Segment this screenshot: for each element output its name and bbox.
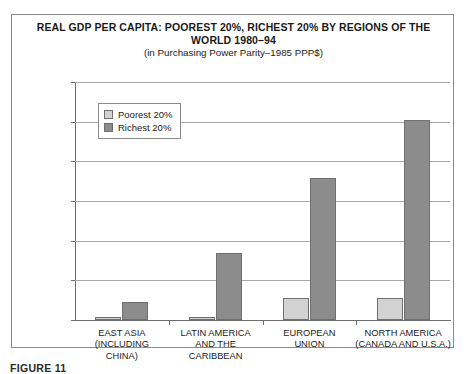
bar-richest bbox=[310, 178, 336, 320]
legend-label-richest: Richest 20% bbox=[118, 122, 171, 133]
category-separator bbox=[356, 320, 357, 325]
gridline bbox=[75, 280, 450, 281]
chart-subtitle: (in Purchasing Power Parity–1985 PPP$) bbox=[26, 47, 441, 59]
bar-poorest bbox=[95, 317, 121, 320]
gridline bbox=[75, 201, 450, 202]
gridline bbox=[75, 241, 450, 242]
gridline bbox=[75, 82, 450, 83]
bar-poorest bbox=[283, 298, 309, 320]
bar-richest bbox=[122, 302, 148, 320]
y-axis-tick-mark bbox=[71, 161, 75, 162]
y-axis-tick-mark bbox=[71, 201, 75, 202]
x-axis-label-line: NORTH AMERICA bbox=[344, 328, 462, 339]
legend-label-poorest: Poorest 20% bbox=[118, 109, 172, 120]
y-axis-tick-mark bbox=[71, 82, 75, 83]
figure: REAL GDP PER CAPITA: POOREST 20%, RICHES… bbox=[0, 0, 467, 374]
legend-item-poorest: Poorest 20% bbox=[104, 108, 172, 121]
chart-title-line-1: REAL GDP PER CAPITA: POOREST 20%, RICHES… bbox=[26, 21, 441, 34]
chart-title: REAL GDP PER CAPITA: POOREST 20%, RICHES… bbox=[26, 21, 441, 46]
x-axis-label-line: CARIBBEAN bbox=[157, 351, 275, 362]
x-axis-label-line: (CANADA AND U.S.A.) bbox=[344, 339, 462, 350]
x-axis-label: NORTH AMERICA(CANADA AND U.S.A.) bbox=[344, 328, 462, 351]
figure-caption: FIGURE 11 bbox=[10, 362, 66, 374]
legend-swatch-poorest-icon bbox=[104, 110, 113, 119]
legend-item-richest: Richest 20% bbox=[104, 121, 172, 134]
legend-swatch-richest-icon bbox=[104, 123, 113, 132]
bar-richest bbox=[404, 120, 430, 320]
gridline bbox=[75, 161, 450, 162]
y-axis-tick-mark bbox=[71, 241, 75, 242]
chart-legend: Poorest 20% Richest 20% bbox=[98, 103, 181, 139]
category-separator bbox=[169, 320, 170, 325]
bar-poorest bbox=[377, 298, 403, 320]
bar-poorest bbox=[189, 317, 215, 320]
chart-title-line-2: WORLD 1980–94 bbox=[26, 34, 441, 47]
chart-frame: REAL GDP PER CAPITA: POOREST 20%, RICHES… bbox=[11, 14, 454, 348]
category-separator bbox=[263, 320, 264, 325]
y-axis-tick-mark bbox=[71, 122, 75, 123]
bar-richest bbox=[216, 253, 242, 320]
y-axis-tick-mark bbox=[71, 280, 75, 281]
y-axis-tick-mark bbox=[71, 320, 75, 321]
